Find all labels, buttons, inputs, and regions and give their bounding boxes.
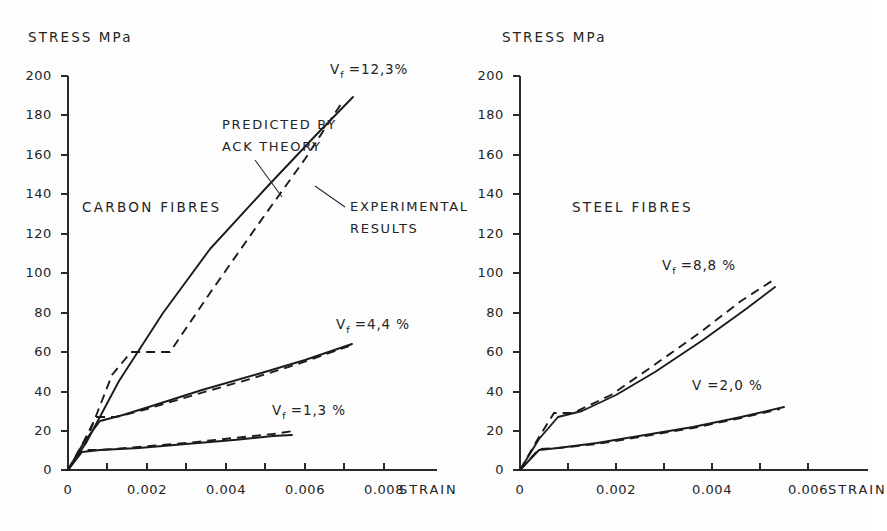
x-axis-title-strain: STRAIN	[828, 483, 887, 497]
annotation-ack-theory-line2: ACK THEORY	[222, 140, 322, 154]
annotation-ack-theory-line1: PREDICTED BY	[222, 118, 337, 132]
series-label-v-symbol: V	[692, 377, 702, 393]
leader-line-ack-theory	[255, 160, 282, 197]
y-tick-label-40: 40	[18, 385, 52, 399]
y-tick-label-60: 60	[18, 345, 52, 359]
y-tick-label-0: 0	[470, 463, 504, 477]
x-tick-label-0006: 0.006	[276, 483, 334, 497]
series-label-vf-4-4: Vf =4,4 %	[336, 317, 410, 335]
x-tick-label-0: 0	[505, 483, 535, 497]
x-tick-marks	[520, 463, 808, 470]
y-tick-label-0: 0	[18, 463, 52, 477]
y-tick-label-140: 140	[470, 187, 504, 201]
x-tick-label-0: 0	[53, 483, 83, 497]
panel-caption-carbon-fibres: CARBON FIBRES	[82, 200, 221, 214]
y-tick-label-200: 200	[470, 69, 504, 83]
series-label-v-symbol: V	[272, 402, 282, 418]
chart-panel-steel-fibres: STRESS MPa STEEL FIBRES 200 180 160 140 …	[430, 0, 871, 531]
chart-panel-carbon-fibres: STRESS MPa CARBON FIBRES 200 180 160 140…	[0, 0, 440, 531]
series-label-vf-1-3: Vf =1,3 %	[272, 403, 346, 421]
y-tick-marks	[513, 76, 520, 470]
y-tick-label-200: 200	[18, 69, 52, 83]
stress-axis-title: STRESS MPa	[28, 30, 133, 44]
y-tick-label-60: 60	[470, 345, 504, 359]
y-tick-label-100: 100	[470, 266, 504, 280]
series-label-v-symbol: V	[336, 316, 346, 332]
curve-vf-1-3-experimental-solid	[68, 435, 292, 470]
series-label-vf-12-3: Vf =12,3%	[330, 62, 408, 80]
series-label-value: =2,0 %	[702, 377, 763, 393]
x-tick-marks	[68, 463, 384, 470]
y-tick-label-180: 180	[18, 108, 52, 122]
x-tick-label-0004: 0.004	[197, 483, 255, 497]
stress-axis-title: STRESS MPa	[502, 30, 607, 44]
y-tick-label-120: 120	[18, 227, 52, 241]
series-label-v-symbol: V	[330, 61, 340, 77]
curve-v-2-0-ack-dashed	[520, 409, 780, 470]
series-label-value: =8,8 %	[676, 257, 737, 273]
leader-line-experimental-results	[315, 186, 345, 207]
y-tick-label-80: 80	[18, 306, 52, 320]
x-tick-label-0002: 0.002	[118, 483, 176, 497]
panel-caption-steel-fibres: STEEL FIBRES	[572, 200, 693, 214]
curve-vf-8-8-ack-dashed	[520, 279, 775, 470]
series-label-value: =4,4 %	[350, 316, 411, 332]
y-tick-label-160: 160	[18, 148, 52, 162]
x-tick-label-0002: 0.002	[587, 483, 645, 497]
y-tick-label-20: 20	[470, 424, 504, 438]
y-tick-label-180: 180	[470, 108, 504, 122]
annotation-experimental-results-line2: RESULTS	[350, 222, 419, 236]
series-label-value: =12,3%	[344, 61, 409, 77]
series-label-v-symbol: V	[662, 257, 672, 273]
y-tick-label-40: 40	[470, 385, 504, 399]
y-tick-label-20: 20	[18, 424, 52, 438]
series-label-v-2-0: V =2,0 %	[692, 378, 763, 392]
x-tick-label-0004: 0.004	[683, 483, 741, 497]
y-tick-label-100: 100	[18, 266, 52, 280]
y-tick-label-80: 80	[470, 306, 504, 320]
series-label-value: =1,3 %	[286, 402, 347, 418]
y-tick-marks	[61, 76, 68, 470]
y-tick-label-120: 120	[470, 227, 504, 241]
y-tick-label-140: 140	[18, 187, 52, 201]
series-label-vf-8-8: Vf =8,8 %	[662, 258, 736, 276]
y-tick-label-160: 160	[470, 148, 504, 162]
